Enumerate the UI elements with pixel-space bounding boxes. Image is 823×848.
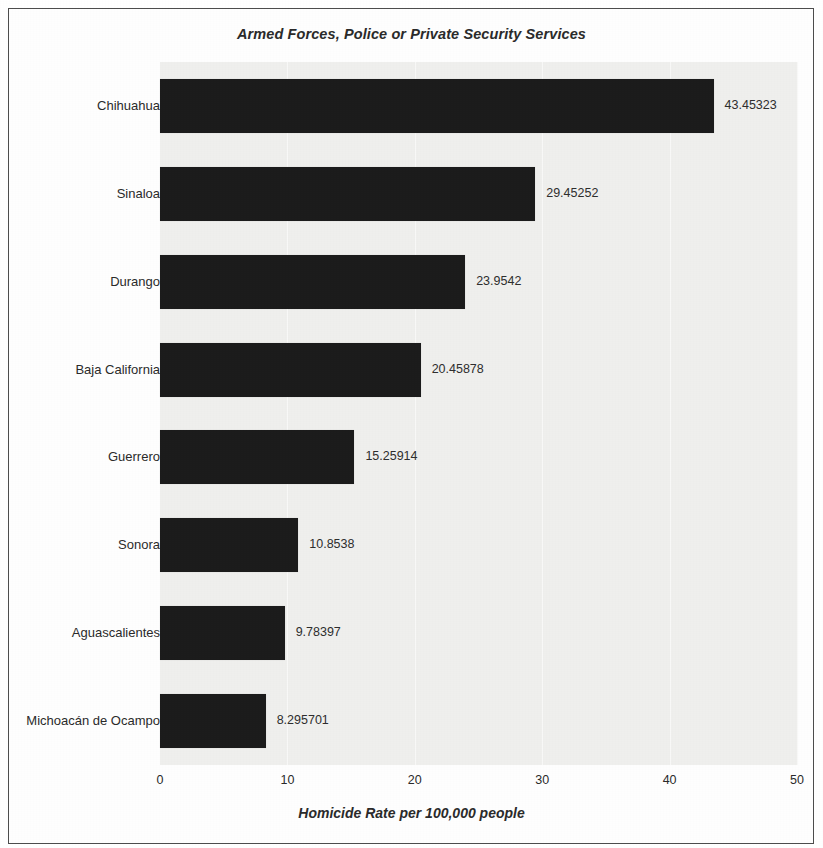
x-axis-ticks: 01020304050 — [160, 765, 797, 795]
category-label: Sinaloa — [0, 186, 160, 201]
category-label: Chihuahua — [0, 98, 160, 113]
bar-value-label: 29.45252 — [546, 186, 598, 200]
category-label: Durango — [0, 274, 160, 289]
bar-value-label: 43.45323 — [725, 98, 777, 112]
bar — [160, 167, 535, 221]
category-axis-labels: ChihuahuaSinaloaDurangoBaja CaliforniaGu… — [0, 62, 160, 765]
x-tick-label: 10 — [280, 773, 294, 787]
bar — [160, 694, 266, 748]
bar — [160, 79, 714, 133]
x-tick-label: 40 — [663, 773, 677, 787]
plot-area: 43.4532329.4525223.954220.4587815.259141… — [160, 62, 797, 765]
bar-row: 10.8538 — [160, 501, 797, 589]
bar — [160, 430, 354, 484]
bar-row: 15.25914 — [160, 414, 797, 502]
bar-row: 20.45878 — [160, 326, 797, 414]
bar-value-label: 20.45878 — [432, 362, 484, 376]
bar-value-label: 10.8538 — [309, 537, 354, 551]
x-axis-label: Homicide Rate per 100,000 people — [0, 805, 823, 821]
bar-row: 23.9542 — [160, 238, 797, 326]
gridline — [797, 62, 798, 765]
bar-value-label: 8.295701 — [277, 713, 329, 727]
x-tick-label: 0 — [157, 773, 164, 787]
category-label: Baja California — [0, 362, 160, 377]
scanned-page: Armed Forces, Police or Private Security… — [0, 0, 823, 848]
bar-row: 8.295701 — [160, 677, 797, 765]
category-label: Sonora — [0, 537, 160, 552]
bar-row: 43.45323 — [160, 62, 797, 150]
bar-value-label: 9.78397 — [296, 625, 341, 639]
bar-value-label: 15.25914 — [365, 449, 417, 463]
chart-title: Armed Forces, Police or Private Security… — [0, 26, 823, 42]
category-label: Aguascalientes — [0, 625, 160, 640]
bar-value-label: 23.9542 — [476, 274, 521, 288]
bar — [160, 255, 465, 309]
bar — [160, 606, 285, 660]
bar — [160, 343, 421, 397]
bar-row: 29.45252 — [160, 150, 797, 238]
x-tick-label: 30 — [535, 773, 549, 787]
bar — [160, 518, 298, 572]
x-tick-label: 20 — [408, 773, 422, 787]
category-label: Guerrero — [0, 449, 160, 464]
bar-row: 9.78397 — [160, 589, 797, 677]
x-tick-label: 50 — [790, 773, 804, 787]
category-label: Michoacán de Ocampo — [0, 713, 160, 728]
